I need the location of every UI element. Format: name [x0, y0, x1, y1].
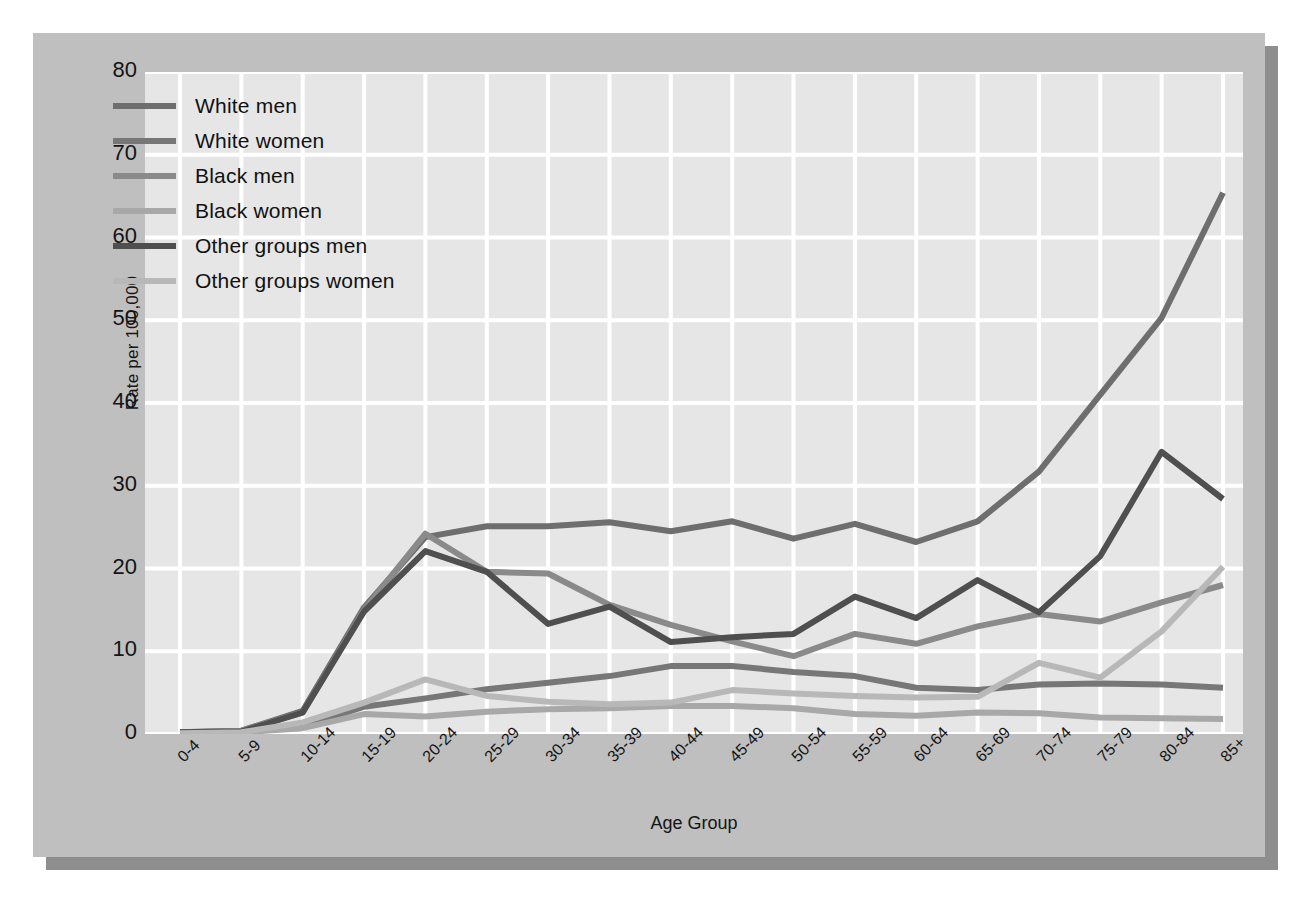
x-tick-label: 85+: [1217, 733, 1249, 765]
legend-item: White women: [113, 123, 395, 158]
legend-swatch-icon: [113, 243, 176, 249]
figure-panel: Rate per 100,000 01020304050607080 0-45-…: [33, 33, 1265, 857]
y-tick-label: 40: [89, 390, 137, 412]
y-tick-label: 10: [89, 638, 137, 660]
y-tick-label: 80: [89, 59, 137, 81]
legend-label: Black women: [195, 199, 322, 223]
y-tick-label: 0: [89, 721, 137, 743]
legend-swatch-icon: [113, 138, 176, 144]
legend-label: White women: [195, 129, 324, 153]
legend-swatch-icon: [113, 208, 176, 214]
legend-item: Other groups women: [113, 263, 395, 298]
legend-swatch-icon: [113, 278, 176, 284]
x-tick-label: 5-9: [235, 736, 265, 766]
x-tick-label: 0-4: [174, 736, 204, 766]
y-tick-label: 20: [89, 556, 137, 578]
legend-label: White men: [195, 94, 297, 118]
legend-item: Black women: [113, 193, 395, 228]
legend-label: Black men: [195, 164, 295, 188]
legend-item: Black men: [113, 158, 395, 193]
legend-label: Other groups women: [195, 269, 395, 293]
legend-swatch-icon: [113, 173, 176, 179]
series-line-4: [180, 452, 1223, 733]
y-tick-label: 30: [89, 473, 137, 495]
legend-label: Other groups men: [195, 234, 367, 258]
x-axis-title: Age Group: [145, 813, 1243, 834]
legend-item: Other groups men: [113, 228, 395, 263]
chart-page: Rate per 100,000 01020304050607080 0-45-…: [0, 0, 1310, 902]
legend-swatch-icon: [113, 103, 176, 109]
series-line-2: [180, 534, 1223, 733]
y-tick-label: 50: [89, 307, 137, 329]
chart-legend: White menWhite womenBlack menBlack women…: [113, 88, 395, 298]
legend-item: White men: [113, 88, 395, 123]
